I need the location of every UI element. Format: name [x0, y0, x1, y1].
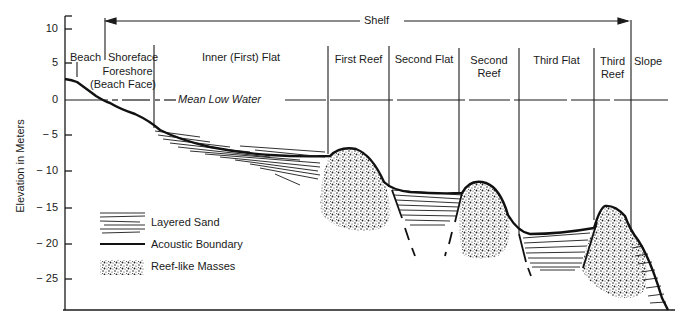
- zone-label-third-reef-2: Reef: [594, 68, 631, 80]
- zone-label-foreshore: Foreshore: [100, 65, 155, 77]
- zone-label-shoreface: Shoreface: [108, 51, 158, 63]
- zone-label-beach: Beach: [70, 51, 101, 63]
- third-reef-mass: [582, 206, 647, 298]
- zone-label-third-flat: Third Flat: [519, 54, 594, 66]
- y-tick-0: 0: [28, 93, 58, 105]
- y-tick-minus-25: − 25: [28, 272, 58, 284]
- mean-low-water-label: Mean Low Water: [176, 93, 263, 105]
- layered-sand-third-flat: [523, 233, 590, 270]
- legend-label-layered-sand: Layered Sand: [151, 216, 220, 228]
- zone-label-beach-face: (Beach Face): [90, 78, 155, 90]
- legend-label-acoustic-boundary: Acoustic Boundary: [151, 238, 243, 250]
- zone-label-first-reef: First Reef: [328, 53, 389, 65]
- shelf-label: Shelf: [362, 14, 391, 26]
- layered-sand-second-flat: [392, 190, 462, 225]
- zone-label-slope: Slope: [634, 55, 662, 67]
- y-tick-minus-5: − 5: [28, 128, 58, 140]
- reef-profile-diagram: [0, 0, 689, 323]
- legend-layered-sand-symbol: [100, 213, 145, 233]
- first-reef-mass: [320, 148, 390, 231]
- legend-label-reef-masses: Reef-like Masses: [151, 260, 235, 272]
- zone-label-third-reef-1: Third: [594, 55, 631, 67]
- legend-reef-masses-symbol: [100, 260, 144, 275]
- second-reef-mass: [459, 182, 510, 259]
- zone-label-second-reef-2: Reef: [459, 67, 519, 79]
- y-tick-5: 5: [28, 56, 58, 68]
- y-tick-minus-15: − 15: [28, 201, 58, 213]
- zone-label-second-flat: Second Flat: [389, 53, 459, 65]
- zone-label-inner-flat: Inner (First) Flat: [154, 51, 328, 63]
- zone-label-second-reef-1: Second: [459, 54, 519, 66]
- y-tick-minus-20: − 20: [28, 237, 58, 249]
- y-tick-minus-10: − 10: [28, 164, 58, 176]
- y-tick-10: 10: [28, 22, 58, 34]
- y-axis-label: Elevation in Meters: [14, 106, 26, 226]
